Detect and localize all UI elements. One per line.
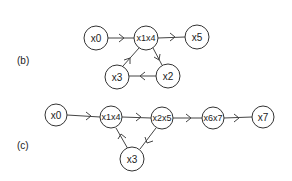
svg-text:x0: x0 (91, 33, 102, 44)
node-c-x7: x7 (252, 106, 274, 128)
node-c-x0: x0 (45, 104, 67, 126)
node-b-x3: x3 (105, 65, 129, 89)
edge-c-x3-x1x4 (116, 128, 128, 149)
svg-text:x2: x2 (163, 71, 174, 82)
edge-c-x1x4-x2x5 (122, 113, 151, 121)
node-b-x2: x2 (156, 64, 180, 88)
node-c-x3: x3 (120, 147, 144, 171)
diagram-b: (b) x0 x1x4 (17, 25, 209, 89)
edge-c-x2x5-x6x7 (173, 114, 202, 122)
node-c-x2x5: x2x5 (151, 107, 173, 129)
svg-text:x3: x3 (127, 154, 138, 165)
svg-text:x1x4: x1x4 (101, 112, 120, 122)
graph-diagrams: (b) x0 x1x4 (0, 0, 292, 181)
svg-text:x6x7: x6x7 (203, 113, 222, 123)
panel-label-c: (c) (17, 140, 29, 151)
edge-c-x2x5-x3 (140, 128, 156, 149)
svg-text:x2x5: x2x5 (152, 113, 171, 123)
node-b-x5: x5 (185, 25, 209, 49)
edge-b-x3-x1x4 (123, 48, 139, 66)
diagram-c: (c) x0 (17, 104, 274, 171)
node-c-x1x4: x1x4 (100, 106, 122, 128)
edge-b-x0-x1x4 (108, 34, 134, 42)
edge-b-x1x4-x2 (153, 48, 162, 65)
edge-b-x1x4-x5 (158, 33, 185, 41)
svg-text:x5: x5 (192, 32, 203, 43)
svg-text:x3: x3 (112, 72, 123, 83)
node-c-x6x7: x6x7 (202, 107, 224, 129)
node-b-x0: x0 (84, 26, 108, 50)
edge-c-x0-x1x4 (67, 112, 100, 120)
edge-b-x2-x3 (129, 72, 156, 80)
svg-text:x7: x7 (258, 112, 269, 123)
panel-label-b: (b) (17, 55, 29, 66)
edge-c-x6x7-x7 (224, 114, 252, 122)
svg-text:x0: x0 (51, 110, 62, 121)
node-b-x1x4: x1x4 (134, 26, 158, 50)
svg-text:x1x4: x1x4 (136, 33, 155, 43)
